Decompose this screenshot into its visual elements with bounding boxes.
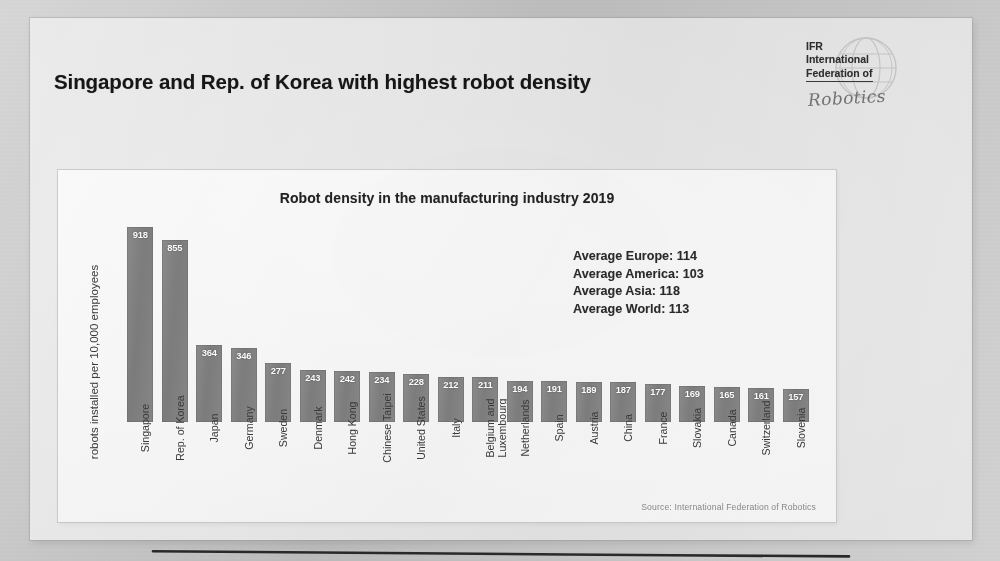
bar-value-label: 277: [265, 365, 291, 376]
bar-column: 243Denmark: [300, 218, 326, 422]
bar-value-label: 243: [300, 372, 326, 383]
bar-column: 364Japan: [196, 218, 222, 422]
x-axis-tick-label: Japan: [209, 414, 221, 443]
bar-column: 228United States: [403, 218, 429, 422]
bar-value-label: 187: [610, 384, 636, 395]
ifr-logo: IFR International Federation of Robotics: [806, 34, 932, 118]
x-axis-tick-label: Rep. of Korea: [175, 395, 187, 460]
page-title: Singapore and Rep. of Korea with highest…: [54, 70, 694, 94]
bar-value-label: 212: [438, 379, 464, 390]
x-axis-tick-label: France: [658, 412, 670, 445]
bar-value-label: 918: [127, 229, 153, 240]
bar-column: 242Hong Kong: [334, 218, 360, 422]
bar-column: 918Singapore: [127, 218, 153, 422]
x-axis-tick-label: Slovakia: [692, 408, 704, 448]
bar-value-label: 169: [679, 388, 705, 399]
scanned-page-background: Singapore and Rep. of Korea with highest…: [0, 0, 1000, 561]
bar-column: 212Italy: [438, 218, 464, 422]
bar-column: 161Switzerland: [748, 218, 774, 422]
x-axis-tick-label: Denmark: [313, 407, 325, 450]
bar-column: 346Germany: [231, 218, 257, 422]
bar-value-label: 161: [748, 390, 774, 401]
chart-panel: Robot density in the manufacturing indus…: [58, 170, 836, 522]
bar-value-label: 189: [576, 384, 602, 395]
bar-column: 277Sweden: [265, 218, 291, 422]
bar-value-label: 855: [162, 242, 188, 253]
y-axis-label: robots installed per 10,000 employees: [88, 237, 100, 487]
bar-value-label: 346: [231, 350, 257, 361]
bar: 918: [127, 227, 153, 422]
x-axis-tick-label: Italy: [451, 418, 463, 437]
bar-column: 187China: [610, 218, 636, 422]
bar-value-label: 242: [334, 373, 360, 384]
x-axis-tick-label: Belgium andLuxembourg: [485, 399, 508, 458]
bar-value-label: 165: [714, 389, 740, 400]
bar-value-label: 211: [472, 379, 498, 390]
bar-column: 211Belgium andLuxembourg: [472, 218, 498, 422]
bar-column: 855Rep. of Korea: [162, 218, 188, 422]
x-axis-tick-label: Slovenia: [796, 408, 808, 449]
bar-value-label: 191: [541, 383, 567, 394]
bar-column: 234Chinese Taipei: [369, 218, 395, 422]
bar-value-label: 177: [645, 386, 671, 397]
x-axis-tick-label: Austria: [589, 412, 601, 445]
ifr-logo-script: Robotics: [807, 86, 886, 110]
x-axis-tick-label: Germany: [244, 406, 256, 450]
bar-column: 177France: [645, 218, 671, 422]
x-axis-tick-label: Spain: [554, 414, 566, 441]
bar: 212: [438, 377, 464, 422]
bar-value-label: 194: [507, 383, 533, 394]
bar-column: 194Netherlands: [507, 218, 533, 422]
bar-column: 157Slovenia: [783, 218, 809, 422]
bar-value-label: 234: [369, 374, 395, 385]
ifr-logo-line3: Federation of: [806, 67, 873, 82]
ifr-logo-line2: International: [806, 53, 873, 66]
x-axis-tick-label: Sweden: [278, 409, 290, 447]
chart-title: Robot density in the manufacturing indus…: [58, 190, 836, 206]
bar-value-label: 364: [196, 347, 222, 358]
chart-source-note: Source: International Federation of Robo…: [641, 502, 816, 512]
x-axis-tick-label: Singapore: [140, 404, 152, 452]
bar-value-label: 157: [783, 391, 809, 402]
bar-column: 189Austria: [576, 218, 602, 422]
x-axis-tick-label: Switzerland: [761, 401, 773, 456]
bar: 364: [196, 345, 222, 422]
plot-area: 918Singapore855Rep. of Korea364Japan346G…: [123, 218, 813, 422]
bar-value-label: 228: [403, 376, 429, 387]
x-axis-tick-label: China: [623, 414, 635, 442]
bar-column: 191Spain: [541, 218, 567, 422]
hand-drawn-trend-line: [151, 548, 851, 560]
bar-column: 169Slovakia: [679, 218, 705, 422]
x-axis-tick-label: Hong Kong: [347, 401, 359, 454]
presentation-slide: Singapore and Rep. of Korea with highest…: [30, 18, 972, 540]
x-axis-tick-label: Netherlands: [520, 399, 532, 456]
x-axis-tick-label: Chinese Taipei: [382, 393, 394, 462]
x-axis-tick-label: United States: [416, 396, 428, 460]
ifr-logo-line1: IFR: [806, 40, 873, 53]
x-axis-tick-label: Canada: [727, 409, 739, 446]
ifr-logo-text: IFR International Federation of: [806, 40, 873, 82]
bar-column: 165Canada: [714, 218, 740, 422]
